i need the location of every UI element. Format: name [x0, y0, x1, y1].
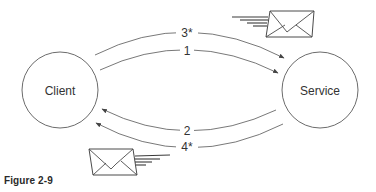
- arrow-2-label: 2: [184, 124, 191, 138]
- envelope-icon: [232, 11, 314, 37]
- arrow-1-label: 1: [184, 44, 191, 58]
- service-node: Service: [282, 52, 358, 128]
- arrow-4-label: 4*: [181, 140, 193, 154]
- envelope-icon: [89, 149, 170, 175]
- speed-line: [135, 155, 170, 156]
- client-label: Client: [45, 84, 76, 98]
- message-exchange-diagram: Client Service 3* 1 2 4*: [0, 0, 376, 192]
- client-node: Client: [22, 52, 98, 128]
- arrow-2-response: 2: [102, 109, 276, 138]
- envelope-body: [89, 149, 137, 175]
- arrow-3-label: 3*: [181, 26, 193, 40]
- figure-caption: Figure 2-9: [4, 175, 53, 186]
- service-label: Service: [300, 84, 340, 98]
- arrow-1-request: 1: [100, 44, 278, 73]
